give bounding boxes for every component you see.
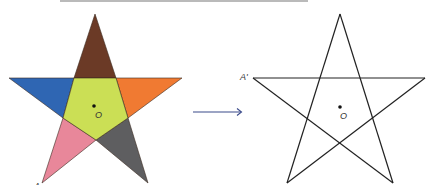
right-star [253, 14, 425, 183]
vertex-label-a: A [34, 182, 40, 185]
star-arm-top [74, 14, 116, 78]
center-point-right [338, 105, 342, 109]
left-star [9, 14, 182, 183]
vertex-label-a-prime: A' [239, 72, 248, 82]
rotation-diagram: O A O A' [0, 0, 428, 185]
star-arm-left [9, 78, 74, 118]
rotation-arrow [193, 109, 242, 116]
center-label-left: O [95, 110, 102, 120]
center-label-right: O [340, 111, 347, 121]
center-point-left [92, 104, 96, 108]
